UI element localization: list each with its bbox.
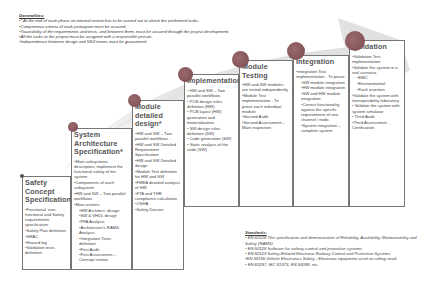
phase-validation: Validation•Validation Test implementatio… <box>349 40 405 207</box>
phase-task: •First Assessment – Concept review <box>74 252 129 262</box>
phase-task: • HW and SW – Two parallel workflows <box>187 88 236 98</box>
phase-safety-concept: Safety Concept Specification*•Functional… <box>22 176 71 270</box>
phase-module-testing: Module Testing•HW and SW modules are tes… <box>239 60 293 207</box>
phase-title: Module Testing <box>242 63 290 80</box>
phase-task: •Main actions: <box>74 202 129 207</box>
phase-task: •Integration Tests definition <box>74 236 129 246</box>
phase-task: •Integration Test implementation - To pr… <box>296 69 346 79</box>
phase-task: •FMEA detailed analysis of HW <box>135 180 181 190</box>
milestone-circle <box>345 31 365 51</box>
phase-task: •PFA Analysis <box>74 219 129 224</box>
phase-integration: Integration•Integration Test implementat… <box>293 55 349 207</box>
phase-task: • Code generation (SW) <box>187 136 236 141</box>
phase-task: •Validation tests definition <box>25 245 68 255</box>
phase-task: •SRAC <box>25 234 68 239</box>
milestone-circle <box>232 51 249 68</box>
generalities-item: •Independence between design and V&V tea… <box>19 39 249 44</box>
phase-task: •HW and SW modules are tested independen… <box>242 82 290 92</box>
generalities-note: Generalities: •* At the end of each phas… <box>19 13 249 45</box>
phase-task: •Components of each subsystem <box>74 180 129 190</box>
phase-task: • Validate the system with system simula… <box>352 103 402 113</box>
phase-task: • PCB layout (HW) generation and materia… <box>187 109 236 125</box>
phase-task: •HW and SW – Two parallel workflows <box>135 131 181 141</box>
phase-title: Module detailed design* <box>135 103 181 129</box>
milestone-dot <box>20 174 24 178</box>
phase-task: •HW Architect. design <box>74 208 129 213</box>
phase-task: •Hazard log <box>25 240 68 245</box>
phase-task: •Functional, non-functional and Safety r… <box>25 207 68 228</box>
phase-task: • Static analysis of the code (SW) <box>187 142 236 152</box>
standards-item: • EN 50126 The specification and demonst… <box>245 235 427 246</box>
phase-task: •Safety Dossier <box>135 207 181 212</box>
milestone-circle <box>287 42 305 60</box>
phase-task: •Module Test implementation - To prove e… <box>242 93 290 114</box>
phase-title: Implementation* <box>187 77 236 86</box>
phase-task: •Second Audit <box>242 114 290 119</box>
phase-task: •Third Assessment - Certification <box>352 120 402 130</box>
phase-task: •Validation Test implementation <box>352 54 402 64</box>
phase-task: •First Audit <box>74 247 129 252</box>
phase-task: •FTA and THR compliance calculation <box>135 191 181 201</box>
phase-task: • SW design rules definition (SW) <box>187 126 236 136</box>
phase-task: •HW and SW Detailed Requirement Specific… <box>135 142 181 158</box>
phase-title: Safety Concept Specification* <box>25 179 68 205</box>
phase-task: •Architecture's RAMS Analysis <box>74 225 129 235</box>
standards-item: • EN 60297, IEC 61373, EN 50088, etc. <box>245 262 427 267</box>
phase-title: System Architecture Specification* <box>74 131 129 157</box>
phase-task: • Third Audit <box>352 114 402 119</box>
divider <box>22 269 184 270</box>
phase-task: •Fault insertion <box>352 87 402 92</box>
phase-task: •Safety Plan definition <box>25 228 68 233</box>
phase-task: •Environmental <box>352 81 402 86</box>
phase-task: •Module Test definition for HW and SW <box>135 169 181 179</box>
phase-task: •EMC <box>352 75 402 80</box>
phase-task: • PCB design rules definition (HW) <box>187 99 236 109</box>
phase-task: •Correct functionality against the speci… <box>296 102 346 123</box>
milestone-circle <box>68 122 78 132</box>
phase-task: •OSHA <box>135 201 181 206</box>
standards-note: Standards: • EN 50126 The specification … <box>245 230 427 267</box>
phase-task: •HW and SW Detailed design <box>135 158 181 168</box>
phase-module-detailed-design: Module detailed design*•HW and SW – Two … <box>132 100 184 270</box>
phase-task: •SW and HW module integration <box>296 91 346 101</box>
phase-implementation: Implementation*• HW and SW – Two paralle… <box>184 74 239 207</box>
divider <box>184 206 405 207</box>
phase-task: •SW & VHDL design <box>74 213 129 218</box>
phase-task: •Main subsystems description, implement … <box>74 159 129 180</box>
phase-title: Integration <box>296 58 346 67</box>
phase-task: •HW module integration <box>296 85 346 90</box>
phase-task: •System integration – complete system <box>296 123 346 133</box>
phase-task: •SW module integration <box>296 80 346 85</box>
phase-task: •HW and SW – Two parallel workflows <box>74 191 129 201</box>
milestone-circle <box>128 94 141 107</box>
phase-task: •Validate the system with interoperabili… <box>352 93 402 103</box>
milestone-circle <box>178 67 193 82</box>
phase-task: •Validate the system in a real scenario. <box>352 65 402 75</box>
phase-system-architecture: System Architecture Specification*•Main … <box>71 128 132 270</box>
phase-task: •Second Assessment – Main inspection <box>242 120 290 130</box>
